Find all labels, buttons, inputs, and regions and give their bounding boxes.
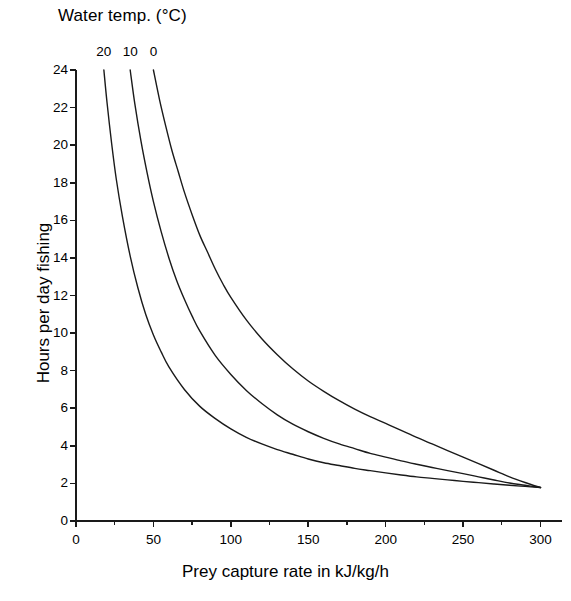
chart-figure: Water temp. (°C) 024681012141618202224 0… [0, 0, 571, 601]
plot-area [0, 0, 571, 601]
axis-lines [76, 70, 562, 521]
x-tick-label: 0 [56, 532, 96, 547]
y-axis-title: Hours per day fishing [34, 138, 54, 468]
y-tick-label: 2 [42, 475, 68, 490]
x-tick-label: 100 [211, 532, 251, 547]
series-lines [104, 70, 541, 488]
series-line-10 [130, 70, 540, 488]
y-tick-label: 22 [42, 100, 68, 115]
x-tick-label: 200 [366, 532, 406, 547]
series-label-20: 20 [90, 44, 118, 59]
series-line-20 [104, 70, 541, 488]
y-tick-label: 0 [42, 513, 68, 528]
series-label-0: 0 [139, 44, 167, 59]
x-tick-label: 300 [521, 532, 561, 547]
x-tick-label: 150 [288, 532, 328, 547]
x-tick-label: 50 [133, 532, 173, 547]
x-tick-label: 250 [443, 532, 483, 547]
x-axis-title: Prey capture rate in kJ/kg/h [0, 562, 571, 582]
series-line-0 [153, 70, 540, 488]
y-tick-label: 24 [42, 62, 68, 77]
